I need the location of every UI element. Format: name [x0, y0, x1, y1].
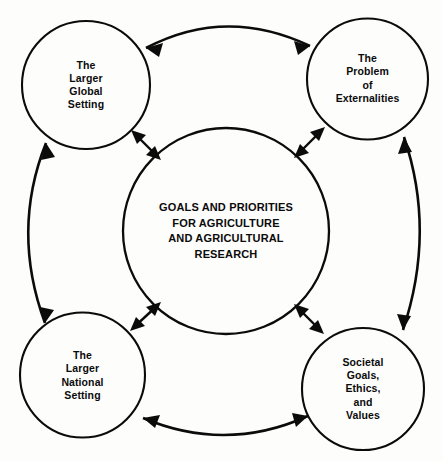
node-circle-center-goals[interactable]	[123, 128, 329, 334]
arrowhead-right	[292, 413, 308, 427]
arrowhead-bottom	[397, 314, 411, 330]
arrowhead-top	[398, 137, 412, 154]
node-circle-global-setting[interactable]	[22, 21, 150, 149]
diagram-graphics	[0, 0, 443, 461]
connector-spoke-bottom-left[interactable]	[130, 302, 161, 331]
connector-bottom-arc[interactable]	[143, 413, 308, 435]
node-circle-national-setting[interactable]	[20, 313, 145, 438]
node-circle-societal-goals[interactable]	[302, 328, 424, 450]
connector-left-arc[interactable]	[28, 143, 55, 323]
connector-spoke-bottom-right[interactable]	[294, 304, 324, 334]
connector-right-arc[interactable]	[397, 137, 420, 330]
arrowhead-left	[143, 415, 160, 428]
node-circle-externalities[interactable]	[307, 19, 428, 140]
connector-spoke-top-right[interactable]	[294, 127, 325, 158]
connector-top-arc[interactable]	[146, 26, 310, 57]
connector-spoke-top-left[interactable]	[131, 130, 161, 160]
diagram-canvas: The Larger Global Setting The Problem of…	[0, 0, 443, 461]
